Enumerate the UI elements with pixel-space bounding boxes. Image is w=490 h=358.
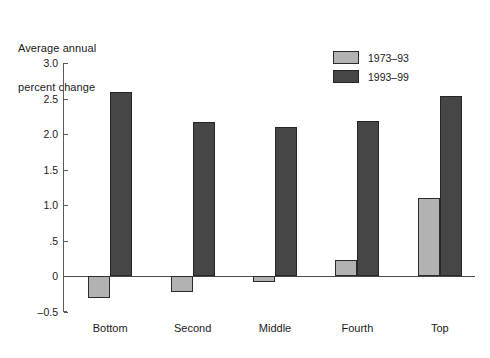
bar-middle-1973-93 xyxy=(253,276,275,282)
legend-swatch-light xyxy=(333,51,359,64)
x-axis-label-fourth: Fourth xyxy=(341,322,373,335)
y-axis-tick-label: 1.0 xyxy=(43,200,58,210)
bar-chart: Average annual percent change 3.02.52.01… xyxy=(0,0,490,358)
x-axis-category-labels: BottomSecondMiddleFourthTop xyxy=(63,322,475,338)
x-axis-label-middle: Middle xyxy=(259,322,291,335)
y-axis-tick-label: 2.0 xyxy=(43,129,58,139)
y-axis-tick-label: –0.5 xyxy=(38,307,58,317)
y-axis-tick-label: .5 xyxy=(49,236,58,246)
bar-fourth-1973-93 xyxy=(335,260,357,276)
x-axis-label-second: Second xyxy=(174,322,211,335)
bar-bottom-1993-99 xyxy=(110,92,132,276)
y-axis-tick-label: 1.5 xyxy=(43,165,58,175)
bar-fourth-1993-99 xyxy=(357,121,379,276)
y-axis-tick xyxy=(64,312,68,313)
bar-bottom-1973-93 xyxy=(88,276,110,297)
legend-item: 1993–99 xyxy=(333,69,409,84)
legend-label: 1973–93 xyxy=(368,52,409,64)
bar-top-1973-93 xyxy=(418,198,440,276)
y-axis-tick-label: 0 xyxy=(52,271,58,281)
y-axis-tick xyxy=(64,63,68,64)
legend-item: 1973–93 xyxy=(333,50,409,65)
y-axis-tick-labels: 3.02.52.01.51.0.50–0.5 xyxy=(14,63,58,312)
x-axis-label-bottom: Bottom xyxy=(93,322,128,335)
plot-area xyxy=(63,63,475,312)
y-axis-tick xyxy=(64,205,68,206)
y-axis-title-line-1: Average annual xyxy=(18,42,96,55)
legend-swatch-dark xyxy=(333,70,359,83)
x-axis-label-top: Top xyxy=(431,322,449,335)
y-axis-tick xyxy=(64,134,68,135)
y-axis-line xyxy=(63,63,64,312)
y-axis-tick-label: 3.0 xyxy=(43,58,58,68)
bar-second-1973-93 xyxy=(171,276,193,292)
y-axis-tick xyxy=(64,170,68,171)
legend-label: 1993–99 xyxy=(368,71,409,83)
bar-second-1993-99 xyxy=(193,122,215,276)
bar-top-1993-99 xyxy=(440,96,462,276)
y-axis-tick xyxy=(64,99,68,100)
y-axis-tick xyxy=(64,241,68,242)
y-axis-tick-label: 2.5 xyxy=(43,94,58,104)
legend: 1973–931993–99 xyxy=(333,50,409,88)
bar-middle-1993-99 xyxy=(275,127,297,276)
